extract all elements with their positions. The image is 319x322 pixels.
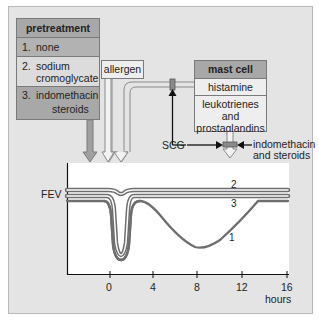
curve-label-2: 2 [231,179,237,190]
curve-label-1: 1 [229,232,235,243]
indomethacin-arrowhead-icon [237,141,244,149]
scg-block-icon [170,79,175,90]
pretreatment-arrow-icon [83,120,97,162]
y-axis-label: FEV [41,188,61,200]
x-axis-label: hours [265,293,291,305]
chart-plot-area [67,163,289,275]
indomethacin-label: indomethacin and steroids [253,139,315,161]
indomethacin-line2: and steroids [253,150,315,161]
diagram-graphics: 2 3 1 [0,0,319,322]
curve-label-3: 3 [231,198,237,209]
x-tick-label-0: 0 [106,281,112,293]
indomethacin-block-icon [223,142,237,147]
x-tick-label-8: 8 [194,281,200,293]
allergen-arrow-2-icon [114,152,128,162]
x-tick-label-16: 16 [281,281,293,293]
scg-label: SCG [162,139,185,151]
scg-right-arrowhead-icon [216,141,223,149]
x-tick-label-4: 4 [150,281,156,293]
x-tick-label-12: 12 [236,281,248,293]
